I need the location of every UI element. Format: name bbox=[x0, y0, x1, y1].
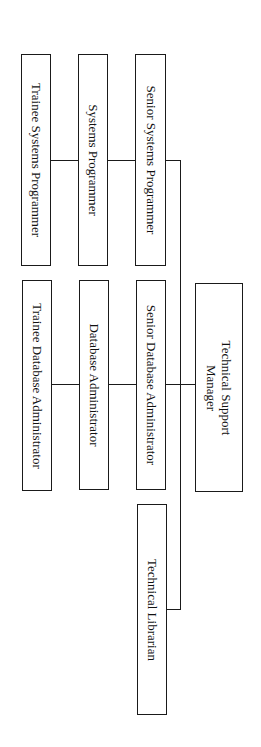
node-label: Database Administrator bbox=[87, 323, 102, 446]
connector-manager-to-bus bbox=[180, 384, 195, 385]
node-label: Systems Programmer bbox=[86, 104, 101, 216]
connector-bus-to-senior-dba bbox=[165, 384, 181, 385]
node-systems-programmer: Systems Programmer bbox=[78, 54, 108, 266]
node-trainee-database-administrator: Trainee Database Administrator bbox=[22, 280, 52, 491]
label-line-2: Manager bbox=[204, 340, 219, 435]
node-senior-systems-programmer: Senior Systems Programmer bbox=[135, 54, 166, 266]
node-technical-support-manager: Technical Support Manager bbox=[195, 283, 243, 492]
node-label: Senior Database Administrator bbox=[144, 305, 159, 465]
connector-senior-to-systems-programmer bbox=[107, 160, 135, 161]
connector-dba-to-trainee-dba bbox=[51, 384, 79, 385]
connector-bus-to-senior-systems bbox=[165, 160, 181, 161]
node-label: Technical Librarian bbox=[145, 559, 160, 661]
node-trainee-systems-programmer: Trainee Systems Programmer bbox=[21, 54, 51, 266]
connector-systems-to-trainee-programmer bbox=[50, 160, 78, 161]
node-technical-librarian: Technical Librarian bbox=[137, 504, 167, 715]
label-line-1: Technical Support bbox=[219, 340, 234, 435]
node-database-administrator: Database Administrator bbox=[79, 280, 109, 490]
connector-bus-to-librarian bbox=[165, 609, 181, 610]
connector-senior-dba-to-dba bbox=[108, 384, 136, 385]
node-label: Trainee Systems Programmer bbox=[29, 83, 44, 237]
node-label: Senior Systems Programmer bbox=[143, 86, 158, 235]
node-label: Trainee Database Administrator bbox=[30, 303, 45, 469]
node-label: Technical Support Manager bbox=[204, 340, 234, 435]
node-senior-database-administrator: Senior Database Administrator bbox=[136, 280, 166, 490]
